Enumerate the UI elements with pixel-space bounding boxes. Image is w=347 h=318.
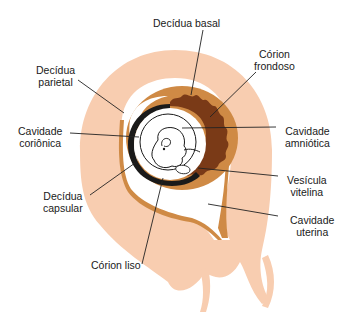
label-cavidade-uterina: Cavidade uterina — [290, 214, 334, 238]
label-decidua-capsular: Decídua capsular — [43, 190, 83, 214]
label-corion-frondoso: Córion frondoso — [254, 48, 295, 72]
label-cavidade-amniotica: Cavidade amniótica — [285, 125, 330, 149]
embryo-eye — [163, 148, 165, 150]
yolk-sac — [176, 165, 190, 174]
label-cavidade-corionica: Cavidade coriônica — [18, 125, 62, 149]
label-corion-liso: Córion liso — [91, 259, 141, 271]
cervix-left — [200, 268, 210, 312]
label-decidua-parietal: Decídua parietal — [36, 64, 75, 88]
uterus-diagram — [0, 0, 347, 318]
label-decidua-basal: Decídua basal — [153, 17, 220, 29]
label-vesicula-vitelina: Vesícula vitelina — [287, 174, 327, 198]
